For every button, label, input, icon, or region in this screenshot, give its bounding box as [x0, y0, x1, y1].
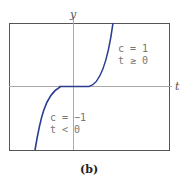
annotation-lower-t: t < 0	[50, 124, 80, 135]
t-axis-label: t	[175, 80, 180, 93]
annotation-lower-c: c = −1	[50, 112, 86, 123]
annotation-upper-c: c = 1	[118, 43, 148, 54]
chart: y t c = 1 t ≥ 0 c = −1 t < 0 (b)	[0, 0, 192, 180]
figure-caption: (b)	[80, 163, 98, 176]
y-axis-label: y	[69, 8, 77, 21]
annotation-upper-t: t ≥ 0	[118, 55, 148, 66]
